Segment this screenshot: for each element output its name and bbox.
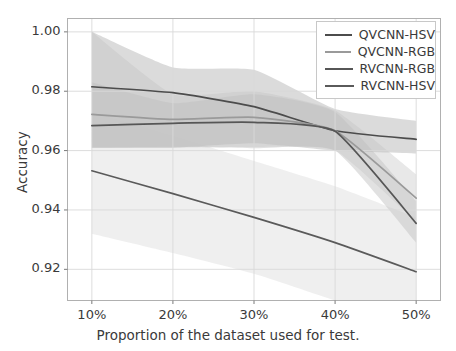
x-tick-label: 20% — [143, 307, 203, 322]
legend-label: RVCNN-RGB — [360, 61, 435, 76]
legend-label: RVCNN-HSV — [361, 78, 435, 93]
x-tick-label: 10% — [62, 307, 122, 322]
chart-figure: 0.920.940.960.981.00 10%20%30%40%50% Acc… — [0, 0, 456, 351]
x-tick-label: 30% — [224, 307, 284, 322]
y-tick-label: 0.98 — [32, 82, 61, 97]
legend-line-icon — [325, 68, 353, 70]
legend-line-icon — [325, 51, 351, 53]
y-axis-label: Accuracy — [14, 131, 30, 193]
legend-item[interactable]: QVCNN-RGB — [317, 43, 435, 60]
y-tick-label: 0.96 — [32, 142, 61, 157]
y-tick-label: 0.92 — [32, 260, 61, 275]
legend-label: QVCNN-RGB — [358, 44, 435, 59]
legend-item[interactable]: RVCNN-HSV — [317, 77, 435, 94]
legend-line-icon — [325, 85, 354, 87]
legend-label: QVCNN-HSV — [359, 27, 435, 42]
y-tick-label: 1.00 — [32, 23, 61, 38]
x-tick-label: 40% — [305, 307, 365, 322]
legend-item[interactable]: RVCNN-RGB — [317, 60, 435, 77]
legend-item[interactable]: QVCNN-HSV — [317, 26, 435, 43]
x-tick-label: 50% — [386, 307, 446, 322]
x-axis-label: Proportion of the dataset used for test. — [0, 327, 456, 343]
y-tick-label: 0.94 — [32, 201, 61, 216]
legend-line-icon — [325, 34, 352, 36]
chart-legend: QVCNN-HSVQVCNN-RGBRVCNN-RGBRVCNN-HSV — [316, 21, 436, 99]
